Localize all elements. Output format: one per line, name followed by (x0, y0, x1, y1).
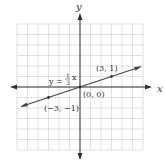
equation-x: x (72, 73, 77, 82)
coordinate-plane: x y y = 1 3 x (3, 1) (0, 0) (−3, −1) (0, 0, 165, 165)
x-axis-left-arrow-icon (10, 85, 17, 90)
line-arrow-left-icon (20, 103, 28, 108)
point-3-1 (110, 75, 113, 78)
x-axis-label: x (157, 83, 163, 94)
point-label-neg3-neg1: (−3, −1) (44, 104, 79, 113)
point-neg3-neg1 (47, 96, 50, 99)
point-label-3-1: (3, 1) (96, 64, 118, 73)
x-axis-right-arrow-icon (145, 85, 152, 90)
y-axis-up-arrow-icon (78, 13, 83, 20)
equation-denominator: 3 (66, 79, 70, 86)
y-axis-down-arrow-icon (78, 153, 83, 160)
point-origin (79, 86, 82, 89)
line-arrow-right-icon (134, 66, 142, 71)
y-axis-label: y (75, 1, 82, 12)
equation-y: y = (48, 77, 63, 86)
point-label-origin: (0, 0) (83, 90, 105, 99)
equation-numerator: 1 (66, 72, 70, 79)
